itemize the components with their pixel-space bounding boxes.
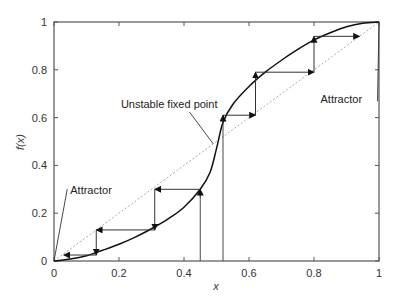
x-tick-label: 0 <box>51 267 57 279</box>
y-tick-label: 0.4 <box>32 159 47 171</box>
x-tick-label: 0.2 <box>111 267 126 279</box>
y-tick-label: 0.8 <box>32 64 47 76</box>
x-axis-label: x <box>212 280 219 292</box>
x-tick-label: 0.8 <box>306 267 321 279</box>
annotation-label: Unstable fixed point <box>121 98 218 110</box>
annotation-label: Attractor <box>70 184 112 196</box>
y-tick-label: 1 <box>41 16 47 28</box>
y-axis-label: f(x) <box>14 134 26 150</box>
cobweb-chart: 00.20.40.60.8100.20.40.60.81 AttractorUn… <box>0 0 395 298</box>
y-tick-label: 0.2 <box>32 207 47 219</box>
y-tick-label: 0 <box>41 255 47 267</box>
annotation-label: Attractor <box>321 93 363 105</box>
y-tick-label: 0.6 <box>32 112 47 124</box>
x-tick-label: 1 <box>376 267 382 279</box>
x-tick-label: 0.4 <box>176 267 191 279</box>
axis-ticks: 00.20.40.60.8100.20.40.60.81 <box>32 16 382 279</box>
x-tick-label: 0.6 <box>241 267 256 279</box>
cobweb-arrows <box>64 36 360 261</box>
identity-line <box>54 22 379 261</box>
